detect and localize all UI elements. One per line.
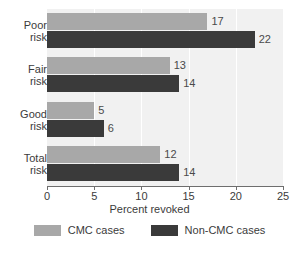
legend-swatch-icon: [34, 225, 61, 236]
plot-wrapper: Poor risk Fair risk Good risk Total risk…: [0, 0, 299, 196]
bar-value-label: 17: [207, 13, 223, 30]
legend-item-cmc[interactable]: CMC cases: [34, 224, 125, 236]
bar[interactable]: [47, 102, 94, 119]
bar-group: 1214: [47, 142, 283, 186]
legend-item-non-cmc[interactable]: Non-CMC cases: [151, 224, 266, 236]
bar-value-label: 22: [255, 31, 271, 48]
y-axis-category-line1: Total: [3, 152, 47, 164]
bar-group: 1314: [47, 53, 283, 97]
bar[interactable]: [47, 120, 104, 137]
bar-group: 56: [47, 98, 283, 142]
y-axis-category-line2: risk: [3, 120, 47, 132]
bar[interactable]: [47, 31, 255, 48]
y-axis-category-line2: risk: [3, 31, 47, 43]
legend-label: CMC cases: [68, 224, 125, 236]
chart-legend: CMC cases Non-CMC cases: [0, 224, 299, 236]
bar[interactable]: [47, 75, 179, 92]
y-axis-category-label: Total risk: [3, 152, 47, 176]
y-axis-category-line2: risk: [3, 75, 47, 87]
bar[interactable]: [47, 57, 170, 74]
x-axis-tick-label: 15: [182, 190, 194, 202]
y-axis-category-line1: Poor: [3, 19, 47, 31]
bar-chart: Poor risk Fair risk Good risk Total risk…: [0, 0, 299, 253]
bar-value-label: 14: [179, 164, 195, 181]
x-axis-tick-label: 0: [44, 190, 50, 202]
legend-swatch-icon: [151, 225, 178, 236]
x-axis-title: Percent revoked: [0, 203, 299, 215]
bar[interactable]: [47, 146, 160, 163]
bar-value-label: 6: [104, 120, 114, 137]
bar[interactable]: [47, 13, 207, 30]
bar-value-label: 5: [94, 102, 104, 119]
y-axis-category-label: Poor risk: [3, 19, 47, 43]
x-axis-tick-label: 10: [135, 190, 147, 202]
y-axis-category-label: Good risk: [3, 108, 47, 132]
y-axis-category-label: Fair risk: [3, 63, 47, 87]
bar-value-label: 14: [179, 75, 195, 92]
x-axis-line: [47, 186, 283, 187]
x-axis-tick-label: 5: [91, 190, 97, 202]
legend-label: Non-CMC cases: [185, 224, 266, 236]
y-axis-category-line1: Fair: [3, 63, 47, 75]
bar-group: 1722: [47, 9, 283, 53]
plot-area: 17221314561214: [47, 9, 283, 186]
y-axis-category-line2: risk: [3, 164, 47, 176]
bar[interactable]: [47, 164, 179, 181]
x-axis-tick-label: 20: [230, 190, 242, 202]
x-axis-tick-label: 25: [277, 190, 289, 202]
y-axis-category-line1: Good: [3, 108, 47, 120]
bar-value-label: 13: [170, 57, 186, 74]
bar-value-label: 12: [160, 146, 176, 163]
